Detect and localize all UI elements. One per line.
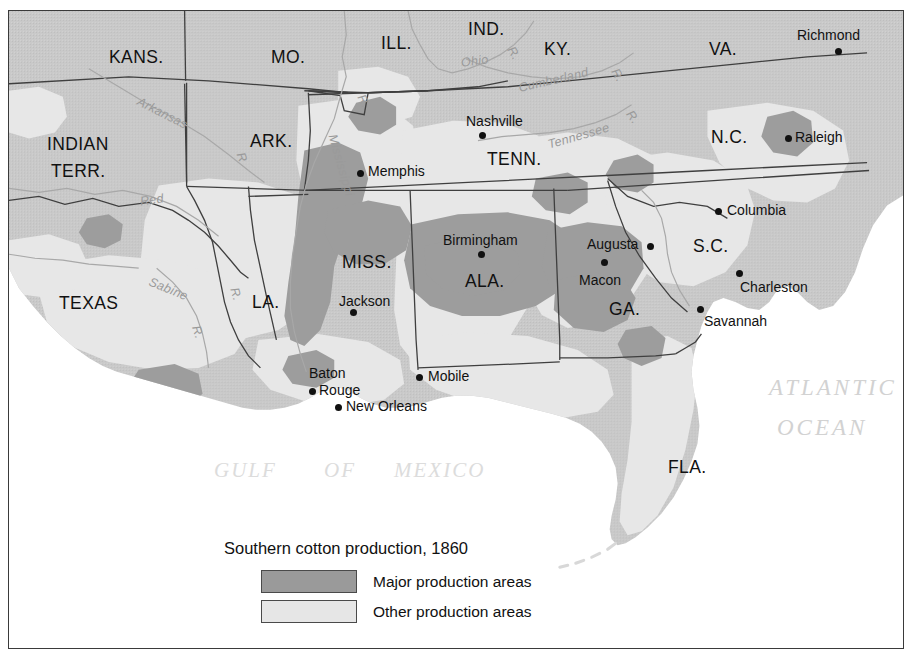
state-label: ILL. xyxy=(381,35,412,53)
city-dot xyxy=(785,135,792,142)
florida-keys xyxy=(560,543,616,567)
ocean-label: ATLANTIC xyxy=(769,376,897,399)
state-label: KY. xyxy=(544,41,571,59)
river-label: Red xyxy=(139,192,164,208)
ocean-label: GULF xyxy=(214,460,277,481)
city-dot xyxy=(715,208,722,215)
map-frame: KANS. MO. ILL. IND. KY. VA. INDIAN TERR.… xyxy=(8,10,904,649)
city-dot xyxy=(601,259,608,266)
map-legend: Southern cotton production, 1860 Major p… xyxy=(224,539,532,630)
city-label: Richmond xyxy=(797,28,860,42)
ocean-label: OCEAN xyxy=(777,416,867,439)
city-label: Rouge xyxy=(319,383,360,397)
legend-title: Southern cotton production, 1860 xyxy=(224,539,532,558)
city-label: Birmingham xyxy=(443,233,518,247)
state-label: INDIAN xyxy=(47,136,109,154)
city-label: Augusta xyxy=(587,237,638,251)
state-label: LA. xyxy=(252,294,279,312)
city-label: Savannah xyxy=(704,314,767,328)
state-label: TENN. xyxy=(487,151,542,169)
state-label: GA. xyxy=(609,301,640,319)
city-dot xyxy=(835,48,842,55)
city-label: Raleigh xyxy=(795,130,842,144)
state-label: TEXAS xyxy=(59,295,118,313)
city-label: Macon xyxy=(579,273,621,287)
legend-item-other: Other production areas xyxy=(224,600,532,623)
state-label: N.C. xyxy=(711,129,748,147)
state-label: KANS. xyxy=(109,49,164,67)
ocean-label: MEXICO xyxy=(394,460,485,481)
state-label: FLA. xyxy=(668,459,707,477)
state-label: S.C. xyxy=(693,238,729,256)
city-dot xyxy=(335,404,342,411)
city-dot xyxy=(479,132,486,139)
ocean-label: OF xyxy=(324,460,356,481)
city-dot xyxy=(478,251,485,258)
legend-swatch-other xyxy=(261,600,357,623)
legend-label: Other production areas xyxy=(373,603,532,621)
state-label: ARK. xyxy=(250,133,292,151)
city-dot xyxy=(647,243,654,250)
river-label: Ohio xyxy=(460,53,489,69)
state-label: MISS. xyxy=(342,254,392,272)
city-label: Nashville xyxy=(466,114,523,128)
city-dot xyxy=(350,309,357,316)
cotton-production-map: KANS. MO. ILL. IND. KY. VA. INDIAN TERR.… xyxy=(0,0,912,659)
legend-item-major: Major production areas xyxy=(224,570,532,593)
state-label: TERR. xyxy=(51,163,106,181)
legend-swatch-major xyxy=(261,570,357,593)
city-dot xyxy=(357,170,364,177)
city-dot xyxy=(416,374,423,381)
city-dot xyxy=(736,270,743,277)
city-label: Mobile xyxy=(428,369,469,383)
city-label: Baton xyxy=(309,366,346,380)
legend-label: Major production areas xyxy=(373,573,532,591)
city-label: Columbia xyxy=(727,203,786,217)
city-label: Charleston xyxy=(740,280,808,294)
city-label: Jackson xyxy=(339,294,390,308)
city-label: Memphis xyxy=(368,164,425,178)
state-label: ALA. xyxy=(465,273,505,291)
state-label: IND. xyxy=(468,21,505,39)
city-label: New Orleans xyxy=(346,399,427,413)
city-dot xyxy=(309,388,316,395)
city-dot xyxy=(697,306,704,313)
state-label: VA. xyxy=(709,41,737,59)
state-label: MO. xyxy=(271,49,305,67)
